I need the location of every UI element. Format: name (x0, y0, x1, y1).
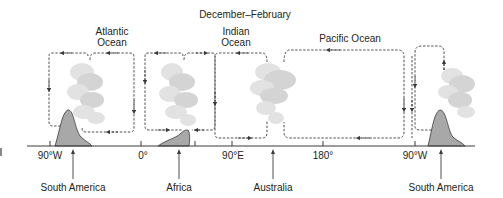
atlantic-label-line2: Ocean (97, 37, 126, 48)
cell-pacific (284, 50, 404, 138)
tick-label-90w-east: 90°W (403, 150, 428, 161)
atlantic-label-line1: Atlantic (96, 26, 129, 37)
tick-label-180: 180° (313, 150, 334, 161)
cloud-south-america-east (438, 68, 475, 118)
tick-label-90w: 90°W (38, 150, 63, 161)
tick-label-0: 0° (138, 150, 148, 161)
landmass-africa (158, 130, 190, 146)
tick-label-90e: 90°E (222, 150, 244, 161)
cloud-indonesia (250, 63, 296, 124)
pointer-africa (177, 149, 181, 179)
pointer-australia (271, 149, 275, 179)
continent-label-africa: Africa (166, 182, 192, 193)
edge-mark (0, 148, 2, 156)
continent-label-south-america-west: South America (40, 182, 105, 193)
continent-label-south-america-east: South America (408, 182, 473, 193)
cloud-africa (159, 63, 198, 126)
diagram-title: December–February (199, 9, 291, 20)
pacific-label: Pacific Ocean (319, 33, 381, 44)
indian-label-line2: Ocean (221, 37, 250, 48)
indian-label-line1: Indian (222, 26, 249, 37)
circulation-cells (49, 46, 444, 138)
continent-label-australia: Australia (254, 182, 293, 193)
pointer-south-america-west (71, 149, 75, 179)
walker-circulation-diagram: December–February Atlantic Ocean Indian … (0, 0, 503, 198)
pointer-south-america-east (439, 149, 443, 179)
